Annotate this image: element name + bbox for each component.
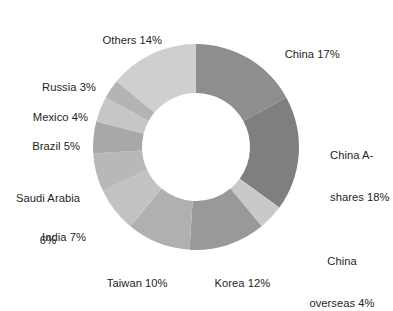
slice-label-others-text: Others 14% xyxy=(103,34,163,46)
slice-label-china: China 17% xyxy=(272,33,340,75)
slice-label-china-overseas-line2: overseas 4% xyxy=(292,296,392,310)
slice-label-korea: Korea 12% xyxy=(196,262,276,304)
slice-label-china-text: China 17% xyxy=(285,48,340,60)
slice-label-korea-text: Korea 12% xyxy=(214,277,270,289)
slice-label-china-overseas-line1: China xyxy=(292,254,392,268)
slice-label-russia-text: Russia 3% xyxy=(42,81,96,93)
slice-label-mexico-text: Mexico 4% xyxy=(33,111,88,123)
slice-label-russia: Russia 3% xyxy=(16,66,96,108)
slice-label-china-overseas: China overseas 4% xyxy=(292,226,392,311)
slice-label-taiwan: Taiwan 10% xyxy=(88,262,174,304)
slice-label-taiwan-text: Taiwan 10% xyxy=(107,277,168,289)
slice-label-china-a-shares: China A- shares 18% xyxy=(330,120,390,232)
slice-label-saudi-arabia: Saudi Arabia 6% xyxy=(7,163,89,275)
slice-label-saudi-arabia-line1: Saudi Arabia xyxy=(7,191,89,205)
slice-label-others: Others 14% xyxy=(76,19,176,61)
donut-slices-group xyxy=(93,44,299,250)
slice-label-brazil-text: Brazil 5% xyxy=(32,140,80,152)
slice-label-china-a-shares-line1: China A- xyxy=(330,148,390,162)
slice-label-saudi-arabia-line2: 6% xyxy=(7,233,89,247)
slice-label-china-a-shares-line2: shares 18% xyxy=(330,190,390,204)
